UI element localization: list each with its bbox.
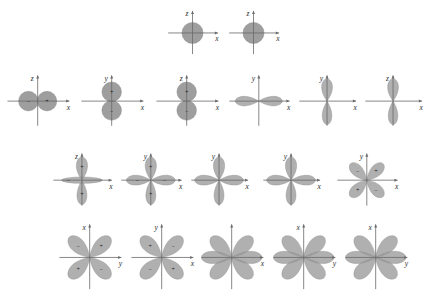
vertical-axis-arrow bbox=[110, 75, 113, 78]
vertical-axis-arrow bbox=[392, 75, 395, 78]
vertical-axis-arrow bbox=[160, 224, 163, 227]
orbital-figure: xzxzxz−+xy+−xz+−xyxyxzxz++−xy++−−xyxyxy+… bbox=[0, 0, 434, 297]
axis-label-vertical-y: y bbox=[154, 223, 159, 232]
vertical-axis-arrow bbox=[326, 75, 329, 78]
orbital-r1c4-p-vertical-lobed: xy bbox=[298, 72, 364, 128]
orbital-r1c3-p-horizontal-lobed: xy bbox=[228, 72, 298, 128]
orbital-r1c5-p-vertical-lobed: xz bbox=[364, 72, 430, 128]
axis-label-vertical-y: y bbox=[211, 152, 216, 161]
axis-label-vertical-x: x bbox=[368, 223, 373, 232]
vertical-axis-arrow bbox=[191, 11, 194, 14]
vertical-axis-arrow bbox=[185, 75, 188, 78]
axis-label-horizontal-x: x bbox=[316, 182, 321, 191]
orbital-r3c2-six-lobe-star: x bbox=[200, 220, 272, 292]
vertical-axis-arrow bbox=[80, 153, 83, 156]
axis-label-vertical-z: z bbox=[179, 74, 183, 83]
axis-label-horizontal-y: y bbox=[332, 259, 337, 268]
axis-label-horizontal-y: y bbox=[118, 259, 123, 268]
vertical-axis-arrow bbox=[36, 75, 39, 78]
orbital-r1c0-p-horizontal-round: xz−+ bbox=[6, 72, 78, 128]
lobe-sign-right: + bbox=[45, 98, 49, 104]
vertical-axis-arrow bbox=[365, 153, 368, 156]
orbital-r3c1-four-lobe-diagonal-signed: xy+−−+ bbox=[130, 220, 202, 292]
axis-label-vertical-y: y bbox=[283, 152, 288, 161]
vertical-axis-arrow bbox=[290, 153, 293, 156]
orbital-r2c0-dz2-like: xz++− bbox=[52, 150, 120, 208]
orbital-r3c0-four-lobe-diagonal-signed: yx−++− bbox=[58, 220, 130, 292]
orbital-r2c2-cross-four-lobe: xy bbox=[190, 150, 256, 208]
orbital-r0c0-s: xz bbox=[167, 8, 225, 56]
lobe-sign-se: + bbox=[171, 266, 175, 272]
axis-label-horizontal-x: x bbox=[190, 259, 195, 268]
axis-label-horizontal-x: x bbox=[244, 182, 249, 191]
lobe-sign-ne: + bbox=[99, 243, 103, 249]
axis-label-horizontal-x: x bbox=[214, 34, 219, 43]
orbital-r3c4-six-lobe-star: yx bbox=[344, 220, 416, 292]
axis-label-vertical-x: x bbox=[82, 223, 87, 232]
axis-label-horizontal-x: x bbox=[352, 103, 357, 112]
orbital-r2c4-six-lobe-rosette: xy+−+− bbox=[336, 150, 406, 208]
lobe-sign-sw: + bbox=[356, 187, 360, 193]
vertical-axis-arrow bbox=[302, 224, 305, 227]
axis-label-vertical-x: x bbox=[296, 223, 301, 232]
axis-label-horizontal-x: x bbox=[260, 259, 265, 268]
lobe-sign-ne: − bbox=[171, 243, 175, 249]
axis-label-horizontal-x: x bbox=[108, 182, 113, 191]
axis-label-vertical-y: y bbox=[319, 74, 324, 83]
axis-label-vertical-z: z bbox=[74, 152, 78, 161]
axis-label-vertical-z: z bbox=[246, 9, 250, 18]
orbital-r1c1-p-vertical-round: xy+− bbox=[80, 72, 152, 128]
vertical-axis-arrow bbox=[230, 224, 233, 227]
axis-label-horizontal-y: y bbox=[404, 259, 409, 268]
axis-label-horizontal-x: x bbox=[178, 182, 183, 191]
axis-label-vertical-y: y bbox=[143, 152, 148, 161]
orbital-r2c1-cross-four-lobe-torus: xy++−− bbox=[120, 150, 190, 208]
orbital-r0c1-s: xz bbox=[228, 8, 286, 56]
vertical-axis-arrow bbox=[257, 75, 260, 78]
lobe-sign-se: − bbox=[99, 266, 103, 272]
axis-label-horizontal-x: x bbox=[418, 103, 423, 112]
orbital-r1c2-p-vertical-round: xz+− bbox=[155, 72, 227, 128]
axis-label-horizontal-x: x bbox=[215, 103, 220, 112]
axis-label-horizontal-x: x bbox=[286, 103, 291, 112]
lobe-sign-nw: − bbox=[356, 168, 360, 174]
vertical-axis-arrow bbox=[374, 224, 377, 227]
orbital-r3c3-six-lobe-star: yx bbox=[272, 220, 344, 292]
lobe-sign-center: − bbox=[67, 177, 71, 183]
axis-label-horizontal-x: x bbox=[275, 34, 280, 43]
axis-label-vertical-y: y bbox=[251, 74, 256, 83]
axis-label-vertical-z: z bbox=[385, 74, 389, 83]
axis-label-vertical-z: z bbox=[30, 74, 34, 83]
axis-label-vertical-y: y bbox=[104, 74, 109, 83]
vertical-axis-arrow bbox=[218, 153, 221, 156]
axis-label-horizontal-x: x bbox=[394, 182, 399, 191]
vertical-axis-arrow bbox=[252, 11, 255, 14]
orbital-r2c3-cross-four-lobe: xy bbox=[262, 150, 328, 208]
axis-label-horizontal-x: x bbox=[140, 103, 145, 112]
vertical-axis-arrow bbox=[88, 224, 91, 227]
axis-label-vertical-z: z bbox=[185, 9, 189, 18]
axis-label-vertical-y: y bbox=[359, 152, 364, 161]
axis-label-horizontal-x: x bbox=[66, 103, 71, 112]
vertical-axis-arrow bbox=[149, 153, 152, 156]
